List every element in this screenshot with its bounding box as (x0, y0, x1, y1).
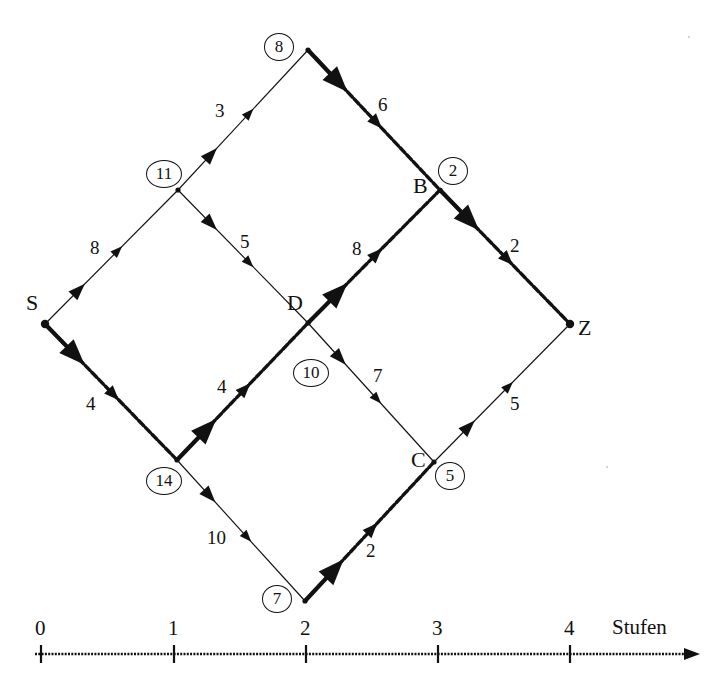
edge-weight-14-7: 10 (207, 528, 226, 547)
node-label-D: D (287, 292, 303, 314)
edge-stub (45, 324, 69, 348)
node-stage-badge-N14[interactable]: 14 (146, 467, 182, 495)
edge-line (177, 460, 305, 601)
edge-stub (440, 190, 464, 214)
edge-weight-7-C: 2 (366, 541, 376, 560)
edge-14-7[interactable] (177, 460, 305, 601)
node-dot-Z[interactable] (566, 320, 574, 328)
edge-D-B[interactable] (308, 190, 440, 323)
axis-tick-label: 1 (168, 618, 179, 639)
edge-B-Z[interactable] (440, 190, 570, 324)
edge-weight-C-Z: 5 (510, 394, 520, 413)
edge-weight-B-Z: 2 (510, 236, 520, 255)
edge-stub (308, 299, 332, 323)
node-stage-badge-C[interactable]: 5 (435, 462, 465, 490)
node-stage-value: 7 (273, 590, 282, 607)
edge-weight-D-B: 8 (352, 239, 362, 258)
node-label-C: C (411, 449, 426, 471)
node-stage-value: 10 (303, 364, 320, 381)
node-layer (41, 47, 574, 603)
node-label-Z: Z (578, 317, 591, 339)
node-dot-N8[interactable] (305, 47, 310, 52)
node-stage-badge-B[interactable]: 2 (438, 157, 468, 185)
edge-S-11[interactable] (45, 190, 178, 324)
edge-14-D[interactable] (177, 323, 308, 460)
node-stage-badge-N8[interactable]: 8 (264, 33, 294, 61)
edge-weight-S-14: 4 (86, 394, 96, 413)
node-dot-B[interactable] (437, 187, 442, 192)
axis-tick-label: 2 (300, 618, 311, 639)
node-stage-badge-N7[interactable]: 7 (262, 585, 292, 613)
edge-C-Z[interactable] (434, 324, 570, 462)
edge-weight-11-D: 5 (240, 232, 250, 251)
edge-stub (308, 50, 331, 75)
edge-weight-D-C: 7 (373, 366, 383, 385)
axis-tick-label: 4 (564, 618, 575, 639)
scan-speck (606, 466, 608, 468)
edge-line (178, 50, 308, 190)
node-stage-value: 11 (156, 165, 172, 182)
diagram-canvas: 8435410687225 S11814D10B27C5Z 01234Stufe… (0, 0, 716, 695)
axis-title: Stufen (612, 617, 667, 638)
node-dot-C[interactable] (431, 459, 436, 464)
node-stage-badge-D[interactable]: 10 (293, 359, 329, 387)
node-stage-badge-N11[interactable]: 11 (146, 160, 182, 188)
edge-S-14[interactable] (45, 324, 177, 460)
node-dot-N11[interactable] (175, 187, 180, 192)
edge-line (45, 190, 178, 324)
edge-weight-11-8: 3 (215, 101, 225, 120)
node-stage-value: 2 (449, 162, 458, 179)
node-stage-value: 8 (275, 38, 284, 55)
edge-line (434, 324, 570, 462)
node-dot-N7[interactable] (302, 598, 307, 603)
edge-11-8[interactable] (178, 50, 308, 190)
node-stage-value: 5 (446, 467, 455, 484)
scan-speck (688, 36, 690, 38)
axis-arrowhead-icon (684, 648, 700, 660)
edge-7-C[interactable] (305, 462, 434, 601)
edge-line (308, 323, 434, 462)
edge-stub (305, 576, 328, 601)
edge-stub (177, 435, 200, 460)
node-dot-D[interactable] (305, 320, 310, 325)
axis-tick-label: 0 (35, 618, 46, 639)
graph-svg (0, 0, 716, 695)
node-label-B: B (413, 175, 428, 197)
edge-weight-S-11: 8 (90, 238, 100, 257)
edge-weight-8-B: 6 (378, 95, 388, 114)
node-label-S: S (26, 292, 38, 314)
edge-D-C[interactable] (308, 323, 434, 462)
axis-tick-label: 3 (432, 618, 443, 639)
node-stage-value: 14 (156, 472, 173, 489)
edge-weight-14-D: 4 (217, 377, 227, 396)
node-dot-S[interactable] (41, 320, 49, 328)
node-dot-N14[interactable] (174, 457, 179, 462)
edge-8-B[interactable] (308, 50, 440, 190)
axis-layer (35, 645, 700, 663)
